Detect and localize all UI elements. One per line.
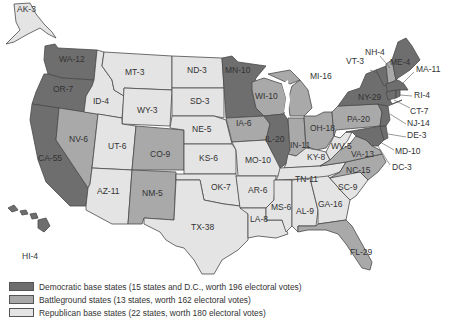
label-ny: NY-29: [358, 92, 382, 102]
leader-ct: [394, 100, 410, 108]
state-ri: [396, 90, 400, 98]
label-ne: NE-5: [192, 124, 212, 134]
label-hi: HI-4: [22, 251, 38, 261]
label-nd: ND-3: [187, 65, 207, 75]
label-or: OR-7: [53, 84, 74, 94]
legend-label: Republican base states (22 states, worth…: [39, 308, 266, 318]
leader-nj: [390, 114, 406, 124]
label-mo: MO-10: [245, 155, 271, 165]
label-nh: NH-4: [365, 47, 385, 57]
state-ct: [386, 90, 396, 100]
label-al: AL-9: [296, 206, 314, 216]
label-nm: NM-5: [142, 188, 163, 198]
label-tx: TX-38: [191, 222, 214, 232]
label-wa: WA-12: [59, 54, 85, 64]
leader-md: [380, 142, 394, 150]
label-id: ID-4: [93, 96, 109, 106]
label-ak: AK-3: [17, 4, 36, 14]
label-mi: MI-16: [310, 71, 332, 81]
label-dc: DC-3: [392, 162, 412, 172]
label-nv: NV-6: [69, 134, 88, 144]
label-ks: KS-6: [199, 153, 218, 163]
map-legend: Democratic base states (15 states and D.…: [9, 280, 302, 319]
label-ky: KY-8: [307, 152, 325, 162]
label-mn: MN-10: [225, 65, 251, 75]
label-vt: VT-3: [346, 56, 364, 66]
label-ms: MS-6: [271, 202, 292, 212]
label-ia: IA-6: [236, 118, 252, 128]
label-pa: PA-20: [347, 114, 370, 124]
label-ok: OK-7: [211, 182, 231, 192]
label-wv: WV-5: [331, 141, 352, 151]
label-ut: UT-6: [108, 141, 127, 151]
label-wi: WI-10: [255, 91, 278, 101]
leader-de: [388, 134, 406, 137]
label-ri: RI-4: [414, 90, 430, 100]
label-az: AZ-11: [97, 186, 120, 196]
legend-item-democratic: Democratic base states (15 states and D.…: [9, 280, 302, 293]
label-mt: MT-3: [125, 67, 145, 77]
state-az: [86, 168, 132, 224]
label-il: IL-20: [265, 134, 285, 144]
label-ma: MA-11: [416, 64, 441, 74]
legend-item-battleground: Battleground states (13 states, worth 16…: [9, 293, 302, 306]
legend-label: Battleground states (13 states, worth 16…: [39, 295, 251, 305]
label-nc: NC-15: [346, 165, 371, 175]
label-la: LA-8: [250, 214, 268, 224]
state-co: [132, 126, 184, 170]
label-ga: GA-16: [318, 199, 343, 209]
leader-ri: [400, 95, 412, 96]
label-me: ME-4: [390, 57, 411, 67]
us-electoral-map: AK-3 HI-4 WA-12 OR-7 CA-55 NV-6 ID-4 MT-…: [0, 0, 449, 280]
swatch-democratic: [9, 282, 34, 291]
label-in: IN-11: [290, 140, 310, 150]
legend-label: Democratic base states (15 states and D.…: [39, 282, 302, 292]
label-sc: SC-9: [338, 182, 358, 192]
label-ct: CT-7: [410, 106, 429, 116]
label-de: DE-3: [407, 130, 427, 140]
label-va: VA-13: [351, 149, 374, 159]
label-tn: TN-11: [295, 174, 318, 184]
label-sd: SD-3: [190, 96, 210, 106]
state-fl: [298, 220, 372, 270]
legend-item-republican: Republican base states (22 states, worth…: [9, 306, 302, 319]
label-fl: FL-29: [350, 247, 372, 257]
label-nj: NJ-14: [407, 118, 430, 128]
label-wy: WY-3: [137, 105, 158, 115]
label-ca: CA-55: [38, 153, 62, 163]
label-oh: OH-18: [310, 123, 335, 133]
label-ar: AR-6: [248, 185, 268, 195]
label-co: CO-9: [150, 149, 171, 159]
swatch-battleground: [9, 295, 34, 304]
state-hi: [8, 205, 50, 232]
label-md: MD-10: [395, 146, 421, 156]
swatch-republican: [9, 308, 34, 317]
